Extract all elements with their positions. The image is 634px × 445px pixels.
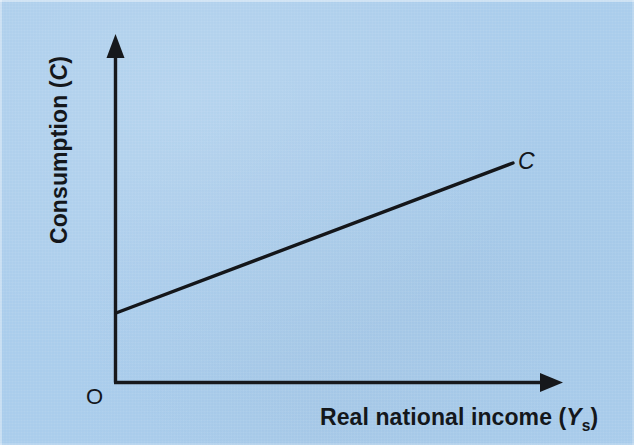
y-axis-arrow-icon xyxy=(107,34,125,58)
origin-label: O xyxy=(86,384,103,410)
y-axis-label-suffix: ) xyxy=(46,56,72,64)
x-axis-arrow-icon xyxy=(540,373,563,392)
x-axis-label-subscript: s xyxy=(582,417,591,434)
y-axis-label: Consumption (C) xyxy=(46,56,73,244)
x-axis-label-variable: Y xyxy=(566,404,581,430)
economics-consumption-function-figure: Consumption (C) Real national income (Ys… xyxy=(0,0,634,445)
consumption-curve-label: C xyxy=(518,148,535,175)
x-axis-label-prefix: Real national income ( xyxy=(320,404,566,430)
y-axis-label-prefix: Consumption ( xyxy=(46,80,72,244)
y-axis-label-variable: C xyxy=(46,64,72,81)
plot-area xyxy=(0,0,634,445)
x-axis-label-suffix: ) xyxy=(591,404,599,430)
consumption-function-line xyxy=(116,163,513,313)
x-axis-label: Real national income (Ys) xyxy=(320,404,598,435)
